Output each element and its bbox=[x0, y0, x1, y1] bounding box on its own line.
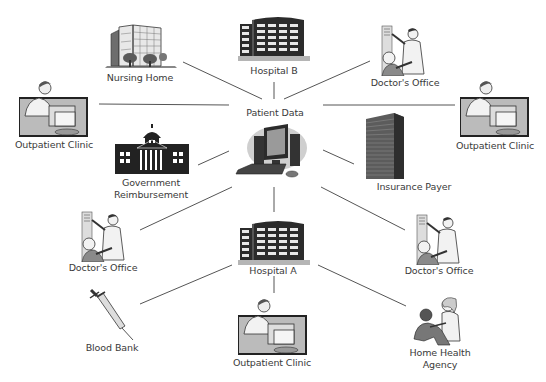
home-health-label-line1: Home Health bbox=[409, 347, 470, 359]
computer-icon bbox=[232, 124, 322, 180]
nurse-patient-icon bbox=[412, 295, 468, 347]
government-label-line1: Government bbox=[122, 177, 180, 189]
edge-home-health bbox=[318, 265, 406, 306]
outpatient-clinic-right-label: Outpatient Clinic bbox=[456, 140, 534, 152]
syringe-icon bbox=[87, 288, 137, 342]
edge-blood-bank bbox=[140, 265, 232, 304]
doctor-patient-icon bbox=[78, 210, 130, 262]
hospital-a-label: Hospital A bbox=[249, 265, 296, 277]
doctor-patient-icon bbox=[378, 24, 430, 76]
edge-doctors-office-right bbox=[321, 187, 405, 230]
doctors-office-left-label: Doctor's Office bbox=[69, 262, 138, 274]
capitol-building-icon bbox=[115, 124, 189, 176]
nursing-home-label: Nursing Home bbox=[107, 72, 174, 84]
doctor-patient-icon bbox=[413, 213, 465, 265]
blood-bank-label: Blood Bank bbox=[86, 342, 139, 354]
hospital-b-icon bbox=[238, 14, 310, 62]
clinician-computer-icon bbox=[238, 296, 308, 356]
outpatient-clinic-bottom-label: Outpatient Clinic bbox=[233, 357, 311, 369]
insurance-payer-label: Insurance Payer bbox=[377, 181, 452, 193]
patient-data-label: Patient Data bbox=[246, 107, 304, 119]
building-icon bbox=[103, 22, 179, 72]
doctors-office-right-label: Doctor's Office bbox=[405, 265, 474, 277]
outpatient-clinic-left-label: Outpatient Clinic bbox=[15, 139, 93, 151]
clinician-computer-icon bbox=[460, 78, 530, 138]
government-label-line2: Reimbursement bbox=[114, 189, 188, 201]
hospital-b-label: Hospital B bbox=[250, 65, 297, 77]
clinician-computer-icon bbox=[19, 78, 89, 138]
hospital-a-icon bbox=[238, 218, 310, 266]
patient-data-network-diagram: Nursing Home Hospital B Doctor's Office bbox=[0, 0, 546, 382]
edge-government bbox=[198, 151, 229, 165]
edge-insurance-payer bbox=[323, 150, 354, 164]
doctors-office-top-label: Doctor's Office bbox=[371, 77, 440, 89]
home-health-label-line2: Agency bbox=[423, 359, 458, 371]
skyscraper-icon bbox=[364, 113, 408, 179]
edge-outpatient-clinic-left bbox=[99, 104, 229, 105]
